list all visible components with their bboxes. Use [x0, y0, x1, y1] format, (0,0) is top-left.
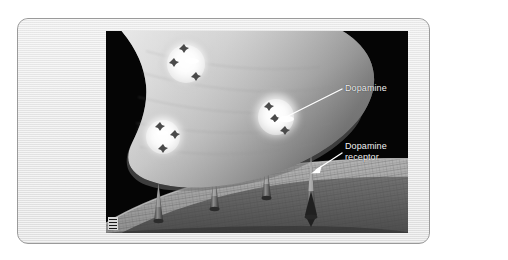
vesicle: [250, 91, 302, 143]
vesicle: [138, 112, 188, 162]
corner-mark-icon: [108, 217, 118, 230]
label-dopamine-receptor: Dopamine receptor: [345, 141, 387, 163]
synapse-diagram: [106, 31, 408, 233]
figure-panel: Dopamine Dopamine receptor: [17, 18, 430, 244]
label-dopamine: Dopamine: [345, 83, 387, 94]
vesicle: [159, 37, 213, 91]
synapse-illustration: Dopamine Dopamine receptor: [106, 31, 408, 233]
label-dopamine-receptor-line1: Dopamine: [345, 141, 387, 152]
label-dopamine-receptor-line2: receptor: [345, 152, 387, 163]
figure-caption: [18, 249, 178, 256]
